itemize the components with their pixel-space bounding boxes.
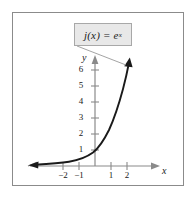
x-axis-label: x — [162, 165, 166, 176]
x-tick-label-2: 2 — [120, 170, 134, 180]
y-tick-label-3: 3 — [75, 112, 87, 122]
x-tick-label--2: −2 — [55, 170, 71, 180]
function-label-exponent: x — [119, 31, 122, 39]
y-tick-label-1: 1 — [75, 144, 87, 154]
y-tick-label-4: 4 — [75, 96, 87, 106]
figure-frame: j(x) = ex y x −2 −1 1 2 1 2 3 4 5 6 — [12, 12, 184, 186]
function-label-text: j(x) = e — [84, 29, 119, 41]
y-tick-label-5: 5 — [75, 80, 87, 90]
y-axis-label: y — [82, 52, 86, 63]
x-tick-label--1: −1 — [71, 170, 87, 180]
function-label-box: j(x) = ex — [74, 23, 132, 46]
y-tick-label-6: 6 — [75, 64, 87, 74]
y-tick-label-2: 2 — [75, 128, 87, 138]
x-tick-label-1: 1 — [104, 170, 118, 180]
